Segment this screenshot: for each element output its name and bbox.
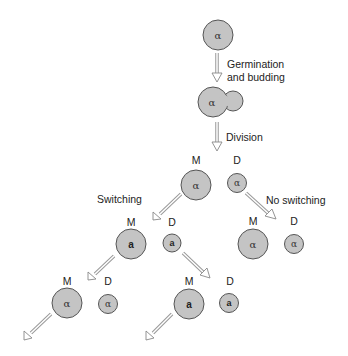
gen2-right-daughter-label: D [290,215,298,227]
gen2-left-daughter-label: D [168,216,176,228]
gen1-daughter-label: D [233,154,241,166]
svg-text:a: a [128,239,134,250]
cell-gen3-mid-mother: a [174,289,204,319]
cell-gen2-right-mother: α [238,229,268,259]
gen3-mid-mother-label: M [185,275,194,287]
arrow-gen3-left-continuation [24,314,51,340]
svg-text:a: a [186,299,192,310]
cell-spore: α [203,20,233,50]
germination-label-line1: Germination [227,58,284,70]
germination-arrow [212,53,222,82]
cell-budding: α [198,87,243,117]
cell-gen3-left-mother: α [52,288,82,318]
cell-gen3-left-daughter: α [99,295,118,314]
no-switching-label: No switching [266,194,326,206]
gen2-right-mother-label: M [249,215,258,227]
svg-text:α: α [234,178,240,188]
svg-text:α: α [209,97,216,108]
svg-text:α: α [215,30,222,41]
germination-label-line2: and budding [227,71,285,83]
gen3-left-daughter-label: D [104,275,112,287]
cell-gen2-left-mother: a [116,229,146,259]
switching-arrow [153,194,181,220]
division-arrow [212,122,222,151]
division-label: Division [226,131,263,143]
svg-text:α: α [291,239,297,249]
switching-label: Switching [97,193,142,205]
arrow-gen3-mid-continuation [146,314,172,340]
svg-text:α: α [193,180,200,191]
svg-text:α: α [250,239,257,250]
svg-text:α: α [105,299,111,309]
lineage-diagram: α Germination and budding α Division M D… [0,0,348,356]
cell-gen3-mid-daughter: a [220,294,239,313]
cell-gen2-left-daughter: a [163,234,181,252]
gen3-left-mother-label: M [63,275,72,287]
cell-gen1-mother: α [181,170,211,200]
gen3-mid-daughter-label: D [226,275,234,287]
gen2-left-mother-label: M [127,216,136,228]
gen1-mother-label: M [192,154,201,166]
cell-gen2-right-daughter: α [285,235,304,254]
cell-gen1-daughter: α [228,174,247,193]
svg-text:α: α [64,298,71,309]
